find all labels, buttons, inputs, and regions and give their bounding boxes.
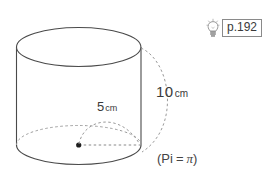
cylinder-top-ellipse: [16, 28, 140, 67]
hint-group: p.192: [206, 18, 262, 38]
lightbulb-icon: [206, 18, 220, 38]
radius-leader-arc: [79, 122, 139, 144]
radius-dimension-label: 5cm: [97, 100, 117, 113]
height-leader-arc: [141, 48, 167, 152]
pi-note: (Pi=π): [157, 152, 197, 165]
page-reference-box[interactable]: p.192: [222, 19, 262, 38]
radius-value: 5: [97, 99, 104, 114]
height-value: 10: [156, 83, 174, 100]
pi-note-open: (Pi: [157, 151, 173, 166]
cylinder-bottom-back-arc: [17, 125, 142, 145]
height-unit: cm: [175, 88, 188, 99]
cylinder-bottom-front-arc: [17, 145, 142, 165]
page-reference-label: p.192: [227, 20, 257, 34]
height-dimension-label: 10cm: [156, 84, 188, 99]
figure-page: 10cm 5cm (Pi=π) p.1: [0, 0, 267, 181]
pi-note-equals: =: [176, 151, 184, 166]
radius-unit: cm: [105, 103, 117, 113]
pi-note-close: ): [193, 151, 197, 166]
